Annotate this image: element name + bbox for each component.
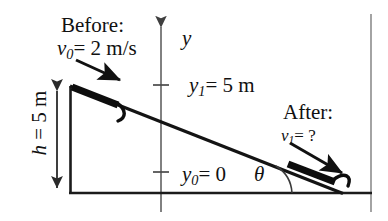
height-value: = 5 m (27, 91, 51, 140)
final-velocity-value: = ? (294, 126, 315, 145)
y0-symbol: y (182, 162, 191, 186)
initial-velocity-value: = 2 m/s (73, 36, 136, 60)
y0-label: y0= 0 (182, 163, 226, 188)
velocity-arrow-before (76, 60, 120, 80)
before-heading-label: Before: (61, 14, 124, 36)
height-label: h = 5 m (28, 83, 50, 163)
physics-incline-diagram: Before: v0= 2 m/s y y1= 5 m After: v1= ?… (0, 0, 388, 221)
y-axis-label: y (182, 27, 191, 49)
y1-label: y1= 5 m (189, 74, 255, 99)
height-symbol: h (27, 145, 51, 156)
initial-velocity-label: v0= 2 m/s (57, 37, 137, 62)
after-heading-label: After: (283, 101, 333, 123)
y1-value: = 5 m (205, 73, 254, 97)
block-before (72, 87, 118, 105)
final-velocity-label: v1= ? (281, 127, 316, 147)
y0-value: = 0 (198, 162, 226, 186)
angle-theta-label: θ (254, 163, 264, 185)
y1-symbol: y (189, 73, 198, 97)
initial-velocity-symbol: v (57, 36, 66, 60)
final-velocity-symbol: v (281, 126, 289, 145)
